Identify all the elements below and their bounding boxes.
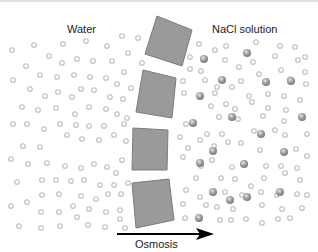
membrane [132,16,192,228]
osmosis-diagram [0,0,318,252]
membrane-segment-2 [136,70,176,118]
membrane-segment-4 [132,179,174,228]
water-label: Water [67,23,96,35]
nacl-ions [189,49,306,222]
nacl-solution-label: NaCl solution [212,23,277,35]
membrane-segment-3 [132,128,168,170]
membrane-segment-1 [145,16,192,66]
osmosis-label: Osmosis [135,238,178,250]
